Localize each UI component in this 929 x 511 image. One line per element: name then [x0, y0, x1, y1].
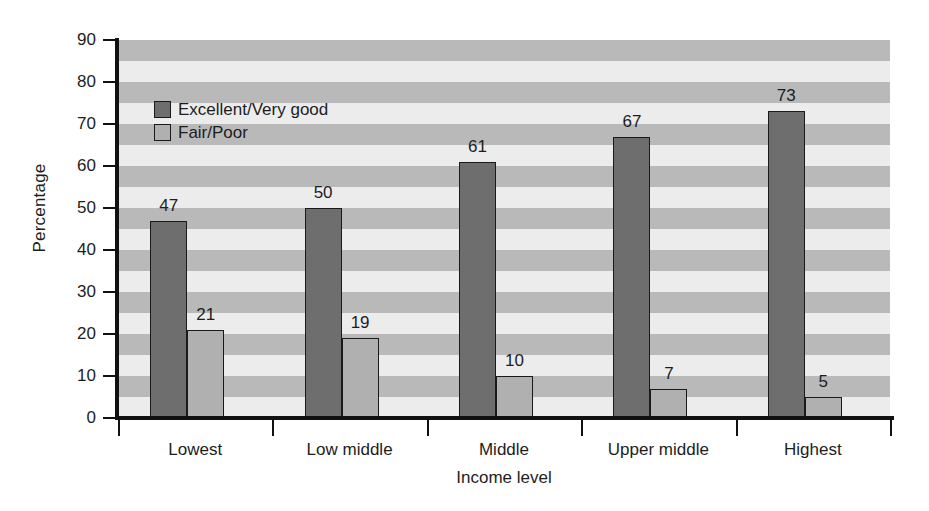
- x-axis-line: [115, 416, 894, 420]
- bar: [496, 376, 533, 418]
- x-axis-tick: [427, 420, 429, 436]
- chart-legend: Excellent/Very good Fair/Poor: [154, 98, 328, 144]
- y-axis-tick-label: 20: [56, 324, 96, 344]
- legend-swatch-icon: [154, 124, 171, 141]
- x-axis-tick: [272, 420, 274, 436]
- bar: [768, 111, 805, 418]
- y-axis-tick: [103, 165, 117, 167]
- y-axis-tick: [103, 207, 117, 209]
- x-axis-category-label: Highest: [784, 440, 842, 460]
- bar-value-label: 7: [664, 364, 673, 384]
- bar-value-label: 47: [159, 196, 178, 216]
- y-axis-tick-label: 50: [56, 198, 96, 218]
- bar: [150, 221, 187, 418]
- bar-value-label: 5: [819, 372, 828, 392]
- bar-value-label: 61: [468, 137, 487, 157]
- legend-label: Fair/Poor: [178, 123, 248, 143]
- x-axis-category-label: Upper middle: [608, 440, 709, 460]
- legend-swatch-icon: [154, 101, 171, 118]
- bar: [459, 162, 496, 418]
- bar-value-label: 73: [777, 86, 796, 106]
- y-axis-tick: [103, 333, 117, 335]
- y-axis-tick: [103, 249, 117, 251]
- bar: [650, 389, 687, 418]
- y-axis-tick-label: 80: [56, 72, 96, 92]
- bar: [805, 397, 842, 418]
- plot-area: [118, 40, 890, 418]
- y-axis-tick-label: 40: [56, 240, 96, 260]
- y-axis-tick-label: 90: [56, 30, 96, 50]
- bar-value-label: 19: [351, 313, 370, 333]
- x-axis-tick: [118, 420, 120, 436]
- y-axis-tick: [103, 81, 117, 83]
- y-axis-line: [115, 38, 119, 420]
- x-axis-category-label: Low middle: [307, 440, 393, 460]
- x-axis-title: Income level: [118, 468, 890, 488]
- y-axis-title: Percentage: [30, 138, 50, 278]
- y-axis-tick: [103, 417, 117, 419]
- y-axis-tick-label: 70: [56, 114, 96, 134]
- x-axis-tick: [581, 420, 583, 436]
- y-axis-tick: [103, 375, 117, 377]
- legend-item-excellent-very-good: Excellent/Very good: [154, 98, 328, 121]
- y-axis-tick: [103, 291, 117, 293]
- y-axis-tick-label: 10: [56, 366, 96, 386]
- bar: [342, 338, 379, 418]
- y-axis-tick: [103, 123, 117, 125]
- y-axis-tick: [103, 39, 117, 41]
- bar-value-label: 10: [505, 351, 524, 371]
- x-axis-tick: [736, 420, 738, 436]
- bar-value-label: 50: [314, 183, 333, 203]
- x-axis-category-label: Middle: [479, 440, 529, 460]
- x-axis-tick: [890, 420, 892, 436]
- y-axis-tick-label: 30: [56, 282, 96, 302]
- bar: [613, 137, 650, 418]
- bar: [187, 330, 224, 418]
- chart-container: Percentage 472150196110677735 0102030405…: [0, 0, 929, 511]
- x-axis-category-label: Lowest: [168, 440, 222, 460]
- bar-value-label: 21: [196, 305, 215, 325]
- bar: [305, 208, 342, 418]
- legend-item-fair-poor: Fair/Poor: [154, 121, 328, 144]
- y-axis-tick-label: 60: [56, 156, 96, 176]
- y-axis-tick-label: 0: [56, 408, 96, 428]
- bar-value-label: 67: [622, 112, 641, 132]
- legend-label: Excellent/Very good: [178, 100, 328, 120]
